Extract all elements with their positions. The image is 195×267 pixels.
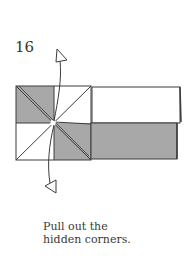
caption-line-1: Pull out the: [43, 220, 131, 233]
push-out-arrow-up-icon: [54, 49, 67, 121]
right-rectangle: [91, 87, 181, 159]
center-opening: [50, 120, 56, 126]
white-flap: [92, 87, 180, 123]
instruction-caption: Pull out the hidden corners.: [43, 220, 131, 246]
gray-flap: [91, 123, 177, 159]
caption-line-2: hidden corners.: [43, 233, 131, 246]
white-flap-edge: [180, 87, 181, 122]
